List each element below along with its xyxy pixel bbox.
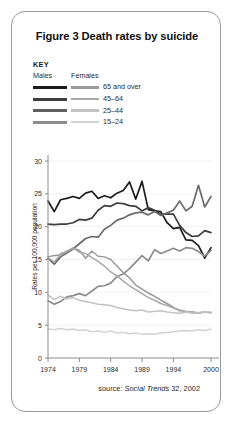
source-suffix: 32, 2002 [169,384,200,393]
chart-series-line [48,248,211,313]
page-title: Figure 3 Death rates by suicide [12,30,221,42]
legend-header-males: Males [33,71,52,80]
legend-swatch-females [71,121,99,123]
legend-swatch-males [33,121,67,124]
chart-series-line [48,248,211,313]
chart-legend: KEY Males Females 65 and over45–6425–441… [33,60,193,128]
legend-swatch-females [71,109,99,111]
chart-series-line [48,248,211,304]
legend-label: 15–24 [103,117,123,126]
y-axis-tick-label: 15 [34,256,42,263]
x-axis-tick-label: 1974 [40,366,56,373]
chart-series-line [48,295,211,313]
source-publication: Social Trends [125,384,170,393]
chart-plot-area: Rates per 100,000 population 05101520253… [12,147,221,372]
line-chart-svg: 051015202530197419791984198919942000 [12,147,221,372]
y-axis-tick-label: 0 [38,355,42,362]
y-axis-tick-label: 5 [38,322,42,329]
legend-key-label: KEY [33,60,193,69]
x-axis-tick-label: 2000 [203,366,219,373]
legend-label: 45–64 [103,94,123,103]
legend-header-females: Females [71,71,99,80]
legend-swatch-females [71,98,99,100]
x-axis-tick-label: 1989 [134,366,150,373]
legend-rows: 65 and over45–6425–4415–24 [33,82,193,128]
y-axis-tick-label: 20 [34,223,42,230]
x-axis-tick-label: 1984 [103,366,119,373]
chart-series-line [48,181,211,258]
legend-label: 65 and over [103,82,141,91]
legend-swatch-males [33,109,67,112]
legend-swatch-females [71,86,99,88]
y-axis-tick-label: 30 [34,158,42,165]
legend-column-headers: Males Females [33,71,193,82]
legend-row: 65 and over [33,82,193,94]
legend-row: 45–64 [33,94,193,106]
legend-swatch-males [33,86,67,89]
legend-label: 25–44 [103,106,123,115]
source-prefix: source: [98,384,124,393]
source-note: source: Social Trends 32, 2002 [12,384,221,393]
legend-row: 25–44 [33,105,193,117]
legend-swatch-males [33,98,67,101]
x-axis-tick-label: 1994 [166,366,182,373]
chart-series-line [48,203,211,236]
x-axis-tick-label: 1979 [72,366,88,373]
y-axis-tick-label: 10 [34,289,42,296]
legend-row: 15–24 [33,117,193,129]
chart-series-line [48,328,211,334]
y-axis-tick-label: 25 [34,190,42,197]
figure-card: Figure 3 Death rates by suicide KEY Male… [11,11,221,412]
